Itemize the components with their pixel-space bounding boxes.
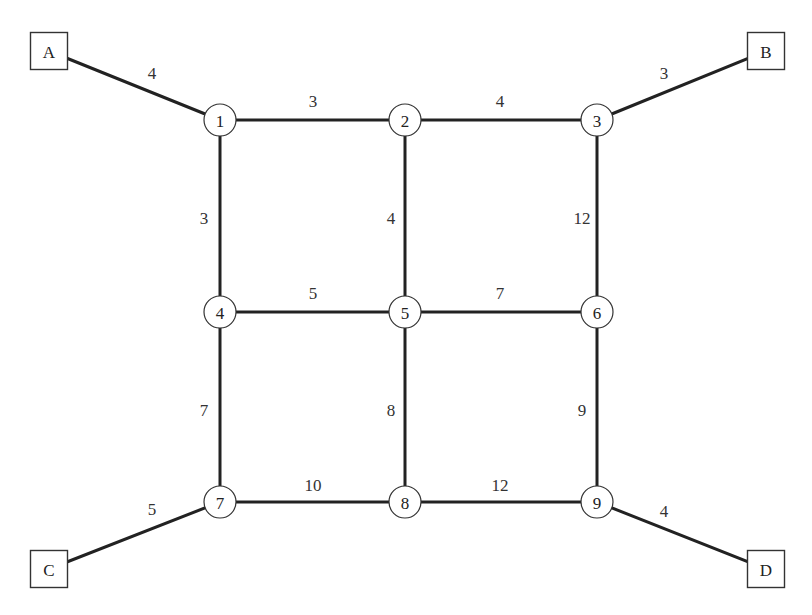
node-label: 1 <box>216 112 225 131</box>
node-5: 5 <box>389 296 421 328</box>
node-label: 2 <box>401 112 410 131</box>
edge-weight-label: 9 <box>578 401 587 420</box>
edge-weight-label: 8 <box>387 401 396 420</box>
node-label: 9 <box>593 494 602 513</box>
edge-weight-label: 7 <box>496 284 505 303</box>
edge-A-1 <box>49 51 220 120</box>
edge-weight-label: 10 <box>305 476 322 495</box>
node-8: 8 <box>389 486 421 518</box>
node-6: 6 <box>581 296 613 328</box>
edge-weight-label: 7 <box>200 401 209 420</box>
node-1: 1 <box>204 104 236 136</box>
node-label: 4 <box>216 304 225 323</box>
edge-weight-label: 5 <box>309 284 318 303</box>
network-diagram: 4354343412577891012 ABCD 123456789 <box>0 0 812 615</box>
terminal-D: D <box>748 551 785 588</box>
terminal-C: C <box>31 551 68 588</box>
edge-weight-label: 12 <box>492 476 509 495</box>
node-label: 3 <box>593 112 602 131</box>
node-label: 6 <box>593 304 602 323</box>
node-2: 2 <box>389 104 421 136</box>
node-label: 5 <box>401 304 410 323</box>
node-4: 4 <box>204 296 236 328</box>
terminal-label: D <box>760 561 772 580</box>
edge-D-9 <box>597 502 766 569</box>
terminal-B: B <box>748 33 785 70</box>
edge-B-3 <box>597 51 766 120</box>
edge-weight-label: 3 <box>660 64 669 83</box>
edge-weight-label: 12 <box>574 209 591 228</box>
edge-weight-label: 4 <box>660 502 669 521</box>
edge-weight-label: 5 <box>148 500 157 519</box>
terminal-A: A <box>31 33 68 70</box>
node-label: 8 <box>401 494 410 513</box>
edge-weight-label: 4 <box>496 92 505 111</box>
terminal-label: C <box>43 561 54 580</box>
node-7: 7 <box>204 486 236 518</box>
edge-weight-label: 3 <box>309 92 318 111</box>
edge-weight-label: 4 <box>387 209 396 228</box>
edge-weight-label: 3 <box>200 209 209 228</box>
node-9: 9 <box>581 486 613 518</box>
node-label: 7 <box>216 494 225 513</box>
node-3: 3 <box>581 104 613 136</box>
edge-weight-label: 4 <box>148 64 157 83</box>
edge-C-7 <box>49 502 220 569</box>
terminal-label: B <box>760 43 771 62</box>
terminal-label: A <box>43 43 56 62</box>
